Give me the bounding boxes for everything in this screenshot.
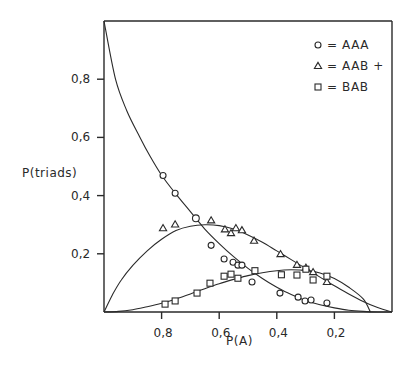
data-point-aab: [232, 225, 239, 231]
data-point-aaa: [160, 173, 166, 179]
data-point-bab: [162, 301, 168, 307]
circle-legend-icon: [315, 42, 321, 48]
y-tick-label: 0,6: [71, 130, 90, 144]
data-point-bab: [221, 273, 227, 279]
data-point-aab: [250, 237, 257, 243]
data-point-aaa: [221, 256, 227, 262]
data-points: [159, 173, 330, 308]
data-point-aaa: [208, 242, 214, 248]
x-axis-label: P(A): [226, 334, 253, 348]
data-point-aaa: [239, 262, 245, 268]
x-tick-label: 0,4: [269, 326, 288, 340]
data-point-aab: [172, 221, 179, 227]
square-legend-icon: [315, 84, 321, 90]
data-point-aaa: [308, 297, 314, 303]
legend-label-bab: = BAB: [327, 80, 369, 94]
data-point-bab: [310, 277, 316, 283]
triangle-legend-icon: [314, 62, 321, 68]
data-point-bab: [194, 290, 200, 296]
x-tick-label: 0,8: [154, 326, 173, 340]
x-tick-label: 0,2: [326, 326, 345, 340]
y-axis-label: P(triads): [22, 166, 77, 180]
data-point-aaa: [324, 300, 330, 306]
data-point-bab: [172, 298, 178, 304]
y-tick-label: 0,2: [71, 247, 90, 261]
legend-label-aaa: = AAA: [327, 38, 369, 52]
data-point-bab: [228, 271, 234, 277]
data-point-bab: [235, 275, 241, 281]
data-point-bab: [278, 272, 284, 278]
data-point-bab: [324, 273, 330, 279]
data-point-bab: [252, 268, 258, 274]
triad-probability-chart: 0,80,60,40,2 0,80,60,40,2 P(A) P(triads)…: [0, 0, 412, 370]
data-point-aaa: [192, 215, 199, 222]
legend-label-aab: = AAB +: [327, 59, 384, 73]
data-point-aaa: [302, 298, 308, 304]
data-point-aaa: [295, 294, 301, 300]
data-point-aaa: [277, 290, 283, 296]
y-tick-label: 0,8: [71, 72, 90, 86]
data-point-aab: [159, 225, 166, 231]
y-tick-label: 0,4: [71, 189, 90, 203]
data-point-aaa: [249, 279, 255, 285]
data-point-bab: [294, 272, 300, 278]
data-point-bab: [303, 266, 309, 272]
data-point-aaa: [172, 190, 178, 196]
data-point-aab: [208, 217, 215, 223]
legend: = AAA= AAB += BAB: [314, 38, 384, 94]
data-point-bab: [207, 280, 213, 286]
